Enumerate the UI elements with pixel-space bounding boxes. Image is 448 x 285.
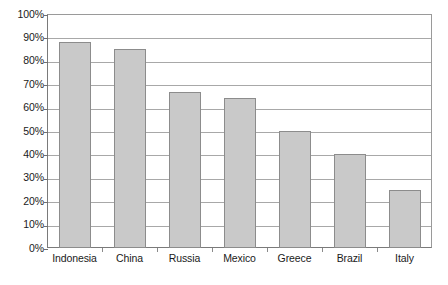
x-tick-mark xyxy=(267,248,268,252)
x-tick-label: Italy xyxy=(377,252,432,264)
x-tick-label: Indonesia xyxy=(47,252,102,264)
x-tick-mark xyxy=(102,248,103,252)
y-tick-mark xyxy=(44,249,48,250)
y-tick-label: 90% xyxy=(0,32,44,42)
y-tick-label: 100% xyxy=(0,9,44,19)
bar-russia xyxy=(169,92,201,248)
bar-mexico xyxy=(224,98,256,248)
x-tick-mark xyxy=(322,248,323,252)
x-axis: IndonesiaChinaRussiaMexicoGreeceBrazilIt… xyxy=(47,252,432,272)
x-tick-label: Greece xyxy=(267,252,322,264)
x-tick-label: Brazil xyxy=(322,252,377,264)
x-tick-label: Russia xyxy=(157,252,212,264)
x-tick-mark xyxy=(212,248,213,252)
bar-chart: 100%90%80%70%60%50%40%30%20%10%0% Indone… xyxy=(0,0,448,285)
y-tick-label: 40% xyxy=(0,149,44,159)
y-tick-label: 10% xyxy=(0,219,44,229)
bar-indonesia xyxy=(59,42,91,248)
x-tick-label: Mexico xyxy=(212,252,267,264)
y-tick-label: 70% xyxy=(0,79,44,89)
x-tick-mark xyxy=(377,248,378,252)
x-tick-mark xyxy=(157,248,158,252)
y-tick-label: 80% xyxy=(0,55,44,65)
x-tick-label: China xyxy=(102,252,157,264)
bar-brazil xyxy=(334,154,366,248)
y-axis: 100%90%80%70%60%50%40%30%20%10%0% xyxy=(0,0,44,285)
y-tick-label: 30% xyxy=(0,172,44,182)
y-tick-label: 60% xyxy=(0,102,44,112)
y-tick-label: 20% xyxy=(0,196,44,206)
y-tick-label: 50% xyxy=(0,126,44,136)
bar-greece xyxy=(279,131,311,248)
bars-layer xyxy=(47,14,432,248)
bar-italy xyxy=(389,190,421,249)
y-tick-label: 0% xyxy=(0,243,44,253)
bar-china xyxy=(114,49,146,248)
